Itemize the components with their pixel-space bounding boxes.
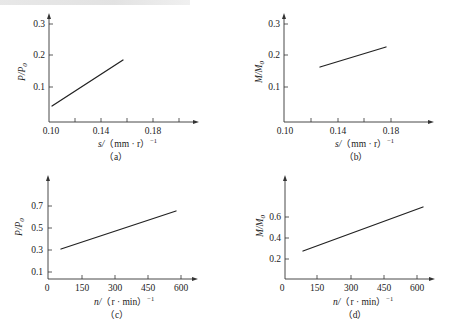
x-axis-arrow-icon: [429, 277, 435, 281]
x-tick-label: 0.18: [145, 126, 162, 136]
x-axis-title: n/（r · min）−1: [333, 295, 393, 307]
x-tick-label: 150: [310, 283, 325, 293]
x-axis-title: n/（r · min）−1: [94, 295, 154, 307]
x-axis-arrow-icon: [428, 120, 434, 124]
y-tick-label: 0.1: [33, 82, 45, 92]
y-tick-label: 0.3: [33, 19, 45, 29]
y-tick-label: 0.6: [269, 212, 281, 222]
x-tick-label: 0.18: [383, 126, 400, 136]
x-axis-title: s/（mm · r）−1: [98, 137, 157, 149]
x-axis-arrow-icon: [193, 120, 199, 124]
y-tick-label: 0.7: [31, 201, 43, 211]
x-axis-title: s/（mm · r）−1: [335, 137, 394, 149]
y-tick-label: 0.2: [269, 254, 281, 264]
y-tick-label: 0.1: [31, 267, 43, 277]
x-tick-label: 300: [344, 283, 359, 293]
panel-label-b: （b）: [344, 151, 369, 162]
x-tick-label: 600: [410, 283, 425, 293]
y-axis-title: P/P0: [17, 63, 29, 82]
data-line: [52, 60, 123, 106]
y-axis-title: P/P0: [14, 218, 26, 237]
y-axis-arrow-icon: [46, 175, 50, 181]
y-tick-label: 0.1: [268, 82, 280, 92]
y-tick-label: 0.2: [33, 50, 45, 60]
x-axis-arrow-icon: [192, 277, 198, 281]
y-axis-title: M/M0: [255, 215, 267, 238]
data-line: [303, 207, 423, 251]
x-tick-label: 0.14: [93, 126, 110, 136]
y-tick-label: 0.5: [31, 223, 43, 233]
chart-panel-c: 0.1 0.3 0.5 0.7 0 150 300 450 600 P/P0 n…: [14, 175, 198, 320]
panel-label-d: （d）: [343, 309, 368, 320]
x-tick-label: 450: [377, 283, 392, 293]
y-tick-label: 0.2: [268, 50, 280, 60]
x-tick-label: 450: [141, 283, 156, 293]
x-tick-label: 0.14: [330, 126, 347, 136]
y-axis-arrow-icon: [283, 175, 287, 181]
y-axis-title: M/M0: [254, 61, 266, 84]
x-tick-label: 0: [280, 283, 285, 293]
y-tick-label: 0.4: [269, 233, 281, 243]
data-line: [320, 47, 386, 67]
x-tick-label: 600: [174, 283, 189, 293]
x-tick-label: 0: [45, 283, 50, 293]
chart-panel-a: 0.1 0.2 0.3 0.10 0.14 0.18 P/P0 s/（mm · …: [17, 13, 199, 162]
figure-canvas: 0.1 0.2 0.3 0.10 0.14 0.18 P/P0 s/（mm · …: [0, 0, 450, 332]
chart-panel-b: 0.1 0.2 0.3 0.10 0.14 0.18 M/M0 s/（mm · …: [254, 13, 434, 162]
panel-label-c: （c）: [105, 309, 129, 320]
x-tick-label: 0.10: [43, 126, 60, 136]
chart-panel-d: 0.2 0.4 0.6 0 150 300 450 600 M/M0 n/（r …: [255, 175, 435, 320]
x-tick-label: 150: [75, 283, 90, 293]
x-tick-label: 0.10: [277, 126, 294, 136]
x-tick-label: 300: [108, 283, 123, 293]
y-tick-label: 0.3: [31, 245, 43, 255]
y-axis-arrow-icon: [282, 13, 286, 19]
y-tick-label: 0.3: [268, 19, 280, 29]
y-axis-arrow-icon: [47, 13, 51, 19]
data-line: [61, 211, 176, 249]
panel-label-a: （a）: [104, 151, 128, 162]
